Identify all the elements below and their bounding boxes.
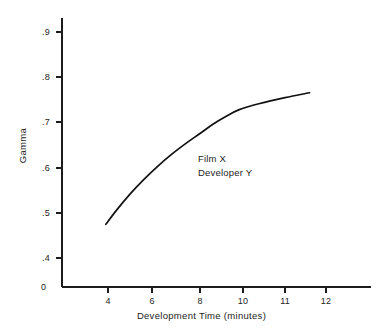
annotation-line-film: Film X [198,152,252,166]
chart-figure: .9 .8 .7 .6 .5 .4 0 4 6 8 10 11 12 Gamma… [0,0,381,333]
x-axis-title: Development Time (minutes) [0,310,381,321]
annotation-line-developer: Developer Y [198,166,252,180]
x-tick-marks [108,287,326,293]
origin-label: 0 [41,282,46,292]
plot-annotation: Film X Developer Y [198,152,252,180]
y-axis-title: Gamma [17,116,28,176]
y-tick-marks [56,32,62,258]
plot-canvas [0,0,381,333]
